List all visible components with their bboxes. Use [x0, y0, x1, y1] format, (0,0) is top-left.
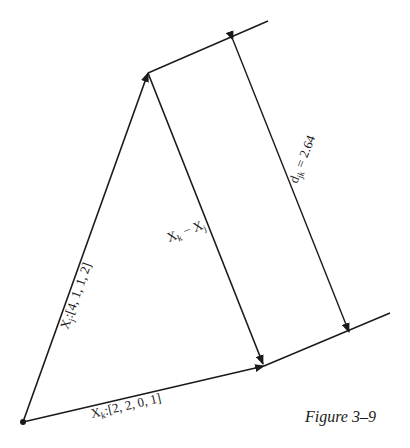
vector-diagram: Xj:[4, 1, 1, 2] Xk:[2, 2, 0, 1] Xk − Xj … [0, 0, 410, 448]
label-xj: Xj:[4, 1, 1, 2] [57, 260, 96, 331]
vector-difference-arrow [148, 73, 263, 364]
bottom-parallel-line [264, 313, 390, 366]
distance-arrow [233, 40, 349, 332]
top-parallel-line [148, 21, 268, 73]
label-xk: Xk:[2, 2, 0, 1] [89, 390, 163, 423]
label-distance: djk = 2.64 [286, 133, 321, 186]
label-difference: Xk − Xj [165, 217, 208, 247]
figure-caption: Figure 3–9 [305, 408, 376, 426]
vector-xj-arrow [23, 73, 148, 422]
